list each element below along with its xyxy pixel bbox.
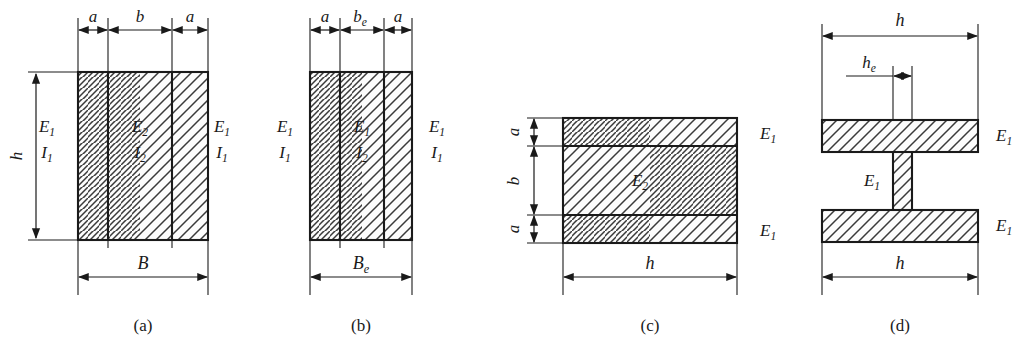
panel-b-left-outer-region bbox=[310, 72, 340, 240]
panel-c-section bbox=[563, 118, 737, 243]
panel-a-dim-a-left-label: a bbox=[89, 7, 98, 26]
panel-d-web bbox=[893, 152, 912, 210]
panel-d-caption: (d) bbox=[890, 316, 910, 335]
panel-a-left-outer-region bbox=[78, 72, 108, 240]
panel-c-dim-a-top-label: a bbox=[504, 128, 523, 137]
panel-c-top-flange-left bbox=[563, 118, 650, 146]
panel-b-right-outer-region bbox=[384, 72, 412, 240]
panel-c-bottom-flange-right bbox=[650, 215, 737, 243]
panel-c-dim-b-label: b bbox=[504, 177, 523, 186]
panel-c-core-right bbox=[650, 146, 737, 215]
panel-a-dim-h-label: h bbox=[7, 152, 26, 161]
panel-c-top-flange-right bbox=[650, 118, 737, 146]
panel-b-caption: (b) bbox=[351, 316, 371, 335]
panel-b-dim-a-left-label: a bbox=[321, 7, 330, 26]
panel-a-dim-b-label: b bbox=[136, 7, 145, 26]
panel-c-bottom-flange-left bbox=[563, 215, 650, 243]
panel-c-dim-a-bottom-label: a bbox=[504, 225, 523, 234]
panel-d-dim-h-top-label: h bbox=[896, 10, 905, 30]
panel-a-caption: (a) bbox=[134, 316, 153, 335]
panel-b-dim-a-right-label: a bbox=[394, 7, 403, 26]
panel-d-dim-h-bottom-label: h bbox=[896, 253, 905, 273]
panel-a-dim-B-label: B bbox=[138, 253, 149, 273]
composite-beam-cross-section-figure: a b a h B E1 I1 E2 I2 E1 I1 (a) bbox=[0, 0, 1017, 357]
panel-c-caption: (c) bbox=[641, 316, 660, 335]
panel-d-bottom-flange bbox=[822, 210, 978, 242]
panel-c-dim-h-label: h bbox=[646, 253, 655, 273]
panel-a-dim-a-right-label: a bbox=[186, 7, 195, 26]
panel-d-top-flange bbox=[822, 120, 978, 152]
panel-a-right-outer-region bbox=[172, 72, 208, 240]
